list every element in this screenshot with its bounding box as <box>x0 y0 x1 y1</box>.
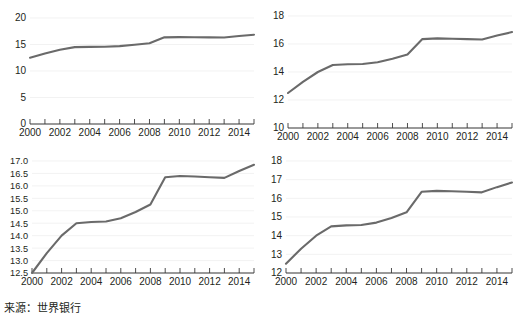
series-line <box>286 182 512 263</box>
x-tick-label: 2004 <box>80 276 103 287</box>
y-tick-label: 17 <box>271 174 283 185</box>
y-tick-label: 15 <box>271 211 283 222</box>
x-tick-label: 2002 <box>50 276 73 287</box>
x-tick-label: 2000 <box>277 131 300 142</box>
y-tick-label: 20 <box>15 12 27 23</box>
chart-panel-bottom-left: 12.513.013.514.014.515.015.516.016.517.0… <box>0 147 258 292</box>
y-tick-label: 17.0 <box>10 156 28 166</box>
x-tick-label: 2014 <box>228 276 251 287</box>
y-tick-label: 15.5 <box>10 194 28 204</box>
chart-grid: 0510152020002002200420062008201020122014… <box>0 2 516 292</box>
y-tick-label: 13.5 <box>10 244 28 254</box>
x-tick-label: 2006 <box>108 127 131 138</box>
series-line <box>32 165 254 273</box>
x-tick-label: 2010 <box>426 276 449 287</box>
chart-panel-bottom-right: 1213141516171820002002200420062008201020… <box>258 147 516 292</box>
y-tick-label: 18 <box>271 155 283 166</box>
y-tick-label: 16.0 <box>10 181 28 191</box>
x-tick-label: 2004 <box>335 276 358 287</box>
x-tick-label: 2006 <box>365 276 388 287</box>
x-tick-label: 2004 <box>337 131 360 142</box>
y-tick-label: 16.5 <box>10 169 28 179</box>
chart-svg-bottom-left: 12.513.013.514.014.515.015.516.016.517.0… <box>0 147 258 292</box>
x-tick-label: 2012 <box>456 131 479 142</box>
y-tick-label: 14.0 <box>10 231 28 241</box>
x-tick-label: 2014 <box>486 131 509 142</box>
y-tick-label: 15.0 <box>10 206 28 216</box>
x-tick-label: 2004 <box>79 127 102 138</box>
x-tick-label: 2012 <box>198 127 221 138</box>
x-tick-label: 2014 <box>228 127 251 138</box>
x-tick-label: 2012 <box>198 276 221 287</box>
y-tick-label: 14.5 <box>10 219 28 229</box>
chart-svg-top-right: 1012141618200020022004200620082010201220… <box>258 2 516 147</box>
series-line <box>30 35 254 58</box>
y-tick-label: 10 <box>15 65 27 76</box>
y-tick-label: 14 <box>271 230 283 241</box>
x-tick-label: 2008 <box>139 276 162 287</box>
x-tick-label: 2006 <box>366 131 389 142</box>
y-tick-label: 14 <box>273 66 285 77</box>
x-tick-label: 2006 <box>110 276 133 287</box>
series-line <box>288 32 512 93</box>
y-tick-label: 15 <box>15 39 27 50</box>
x-tick-label: 2012 <box>456 276 479 287</box>
x-tick-label: 2002 <box>49 127 72 138</box>
x-tick-label: 2000 <box>19 127 42 138</box>
y-tick-label: 13 <box>271 249 283 260</box>
y-tick-label: 13.0 <box>10 256 28 266</box>
x-tick-label: 2010 <box>426 131 449 142</box>
figure-root: 0510152020002002200420062008201020122014… <box>0 0 516 319</box>
x-tick-label: 2010 <box>169 276 192 287</box>
y-tick-label: 12 <box>273 94 285 105</box>
x-tick-label: 2002 <box>307 131 330 142</box>
x-tick-label: 2002 <box>305 276 328 287</box>
x-tick-label: 2008 <box>395 276 418 287</box>
x-tick-label: 2010 <box>168 127 191 138</box>
source-attribution: 来源：世界银行 <box>4 299 81 315</box>
chart-panel-top-right: 1012141618200020022004200620082010201220… <box>258 2 516 147</box>
x-tick-label: 2014 <box>486 276 509 287</box>
x-tick-label: 2008 <box>138 127 161 138</box>
x-tick-label: 2000 <box>21 276 44 287</box>
x-tick-label: 2008 <box>396 131 419 142</box>
chart-svg-top-left: 0510152020002002200420062008201020122014 <box>0 2 258 147</box>
x-tick-label: 2000 <box>275 276 298 287</box>
y-tick-label: 16 <box>273 38 285 49</box>
chart-panel-top-left: 0510152020002002200420062008201020122014 <box>0 2 258 147</box>
y-tick-label: 5 <box>20 92 26 103</box>
y-tick-label: 16 <box>271 193 283 204</box>
y-tick-label: 18 <box>273 10 285 21</box>
chart-svg-bottom-right: 1213141516171820002002200420062008201020… <box>258 147 516 292</box>
